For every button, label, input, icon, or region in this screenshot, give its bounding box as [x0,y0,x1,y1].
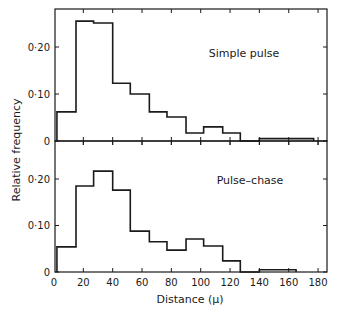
x-tick-label: 160 [279,277,298,288]
y-tick-label: 0 [44,267,50,278]
x-tick-label: 40 [106,277,119,288]
x-tick-label: 20 [77,277,90,288]
panel-frame [55,141,327,272]
x-tick-label: 140 [250,277,269,288]
y-tick-label: 0 [44,136,50,147]
y-tick-label: 0·10 [28,220,50,231]
x-tick-label: 120 [220,277,239,288]
x-tick-label: 60 [136,277,149,288]
x-axis-title: Distance (μ) [156,293,223,306]
pulse-chase-panel: 00·100·20 Pulse–chase [28,141,327,278]
x-axis-ticks [83,9,318,145]
x-tick-label: 80 [165,277,178,288]
panel-frame [55,9,327,141]
y-tick-label: 0·20 [28,174,50,185]
x-tick-label: 180 [309,277,328,288]
x-tick-label: 0 [51,277,57,288]
y-axis-ticks: 00·100·20 [28,174,327,278]
y-axis-title: Relative frequency [10,98,23,202]
histogram-figure: 00·100·20 Simple pulse 00·100·20 Pulse–c… [0,0,340,312]
y-tick-label: 0·20 [28,42,50,53]
x-tick-label: 100 [191,277,210,288]
y-tick-label: 0·10 [28,89,50,100]
simple-pulse-panel: 00·100·20 Simple pulse [28,9,327,147]
panel-label: Simple pulse [209,47,280,60]
x-axis-ticks [83,141,318,272]
panel-label: Pulse–chase [217,174,284,187]
x-tick-labels: 020406080100120140160180 [51,277,328,288]
y-axis-ticks: 00·100·20 [28,42,327,147]
histogram-step-line [57,21,314,141]
